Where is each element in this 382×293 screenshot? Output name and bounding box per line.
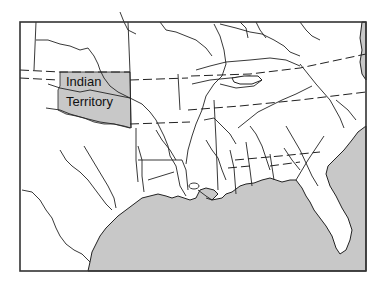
indian-territory-label: Indian <box>66 75 101 89</box>
map-canvas <box>0 0 382 293</box>
label-line-1: Indian <box>66 75 101 89</box>
indian-territory-label-2: Territory <box>66 95 113 109</box>
label-line-2: Territory <box>66 95 113 109</box>
